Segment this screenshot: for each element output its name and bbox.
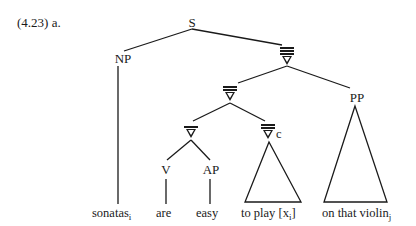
leaf-suffix: ] xyxy=(291,206,295,220)
node-v: V xyxy=(161,163,170,176)
edge-s-vbar3 xyxy=(192,29,282,45)
leaf-to-play: to play [xi] xyxy=(241,207,296,222)
example-number: (4.23) a. xyxy=(17,16,61,29)
leaf-text: to play [x xyxy=(241,206,289,220)
tree-branches xyxy=(0,0,416,226)
edge-vbar2-vbar1 xyxy=(193,103,230,121)
leaf-on-that-violin: on that violinj xyxy=(322,207,391,222)
node-vbar2 xyxy=(223,86,237,101)
node-vbar1 xyxy=(184,126,198,138)
node-vbar2c xyxy=(261,124,275,139)
node-pp: PP xyxy=(350,91,364,104)
node-np: NP xyxy=(115,52,132,65)
leaf-sonatas: sonatasi xyxy=(92,207,131,222)
node-s: S xyxy=(188,16,195,29)
edge-s-np xyxy=(124,29,192,51)
nabla-icon xyxy=(225,92,235,101)
leaf-are: are xyxy=(156,207,171,220)
leaf-text: on that violin xyxy=(322,206,389,220)
nabla-icon xyxy=(186,129,196,138)
edge-vbar3-vbar2 xyxy=(238,66,287,83)
syntax-tree-diagram: (4.23) a. S NP c V AP PP sonatasi are ea… xyxy=(0,0,416,226)
edge-vbar3-pp xyxy=(287,66,350,88)
nabla-icon xyxy=(263,130,273,139)
triangle-vbar2c xyxy=(245,142,301,202)
leaf-easy: easy xyxy=(196,207,218,220)
leaf-text: sonatas xyxy=(92,206,129,220)
nabla-icon xyxy=(282,56,292,65)
node-vbar3 xyxy=(280,47,294,65)
edge-vbar1-ap xyxy=(191,140,210,160)
node-vbar2c-subscript: c xyxy=(276,128,282,141)
leaf-subscript: i xyxy=(129,212,132,222)
edge-vbar1-v xyxy=(167,140,191,160)
leaf-subscript: j xyxy=(389,212,392,222)
triangle-pp xyxy=(324,106,387,202)
node-ap: AP xyxy=(203,163,220,176)
edge-vbar2-vbar2c xyxy=(230,103,265,121)
